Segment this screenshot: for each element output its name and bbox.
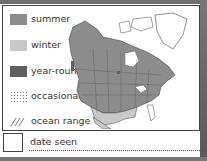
ocean-hatch-icon [10,116,27,127]
date-seen-label: date seen [30,136,77,147]
bottom-border [0,157,207,161]
year-round-swatch-icon [10,66,27,77]
summer-swatch-icon [10,14,27,25]
legend-label: winter [31,39,61,50]
top-border [0,0,207,4]
right-border [200,0,207,161]
north-america-range-map [63,9,198,129]
date-seen-line[interactable] [29,150,200,151]
date-seen-checkbox[interactable] [3,133,23,152]
winter-swatch-icon [10,40,27,51]
occasional-dots-icon [10,91,27,102]
